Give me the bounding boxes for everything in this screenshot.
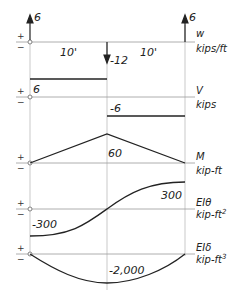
theta-label: EIθ — [196, 197, 211, 208]
support-circle — [28, 40, 32, 44]
m-label: M — [196, 151, 205, 162]
minus-sign: − — [17, 42, 25, 52]
plus-sign: + — [17, 152, 25, 162]
span-right-label: 10' — [140, 46, 157, 59]
m-unit: kip-ft — [196, 165, 223, 176]
deflection-max-value: -2,000 — [109, 264, 144, 277]
shear-left-value: 6 — [33, 83, 40, 96]
right-reaction-value: 6 — [189, 11, 196, 24]
right-reaction-arrowhead-icon — [182, 15, 188, 23]
minus-sign: − — [17, 209, 25, 219]
w-unit: kips/ft — [196, 43, 228, 54]
plus-sign: + — [17, 198, 25, 208]
minus-sign: − — [17, 254, 25, 264]
moment-max-value: 60 — [108, 147, 122, 160]
plus-sign: + — [17, 31, 25, 41]
slope-left-value: -300 — [32, 218, 57, 231]
beam-diagram: + − + − + − + − + − 6 6 -12 10' 10' 6 -6… — [0, 0, 242, 301]
minus-sign: − — [17, 97, 25, 107]
v-unit: kips — [196, 99, 216, 110]
plus-sign: + — [17, 86, 25, 96]
span-left-label: 10' — [60, 46, 77, 59]
plus-sign: + — [17, 243, 25, 253]
left-reaction-arrowhead-icon — [27, 15, 33, 23]
left-reaction-value: 6 — [34, 11, 41, 24]
theta-unit: kip-ft2 — [196, 208, 227, 220]
delta-unit: kip-ft3 — [196, 253, 226, 265]
slope-right-value: 300 — [161, 189, 182, 202]
w-label: w — [196, 28, 205, 39]
shear-diagram — [30, 79, 185, 116]
point-load-value: -12 — [110, 54, 128, 67]
v-label: V — [196, 85, 204, 96]
shear-right-value: -6 — [110, 102, 121, 115]
support-circle — [28, 95, 32, 99]
deflection-diagram — [30, 254, 185, 283]
delta-label: EIδ — [196, 242, 211, 253]
support-circle — [28, 207, 32, 211]
minus-sign: − — [17, 163, 25, 173]
